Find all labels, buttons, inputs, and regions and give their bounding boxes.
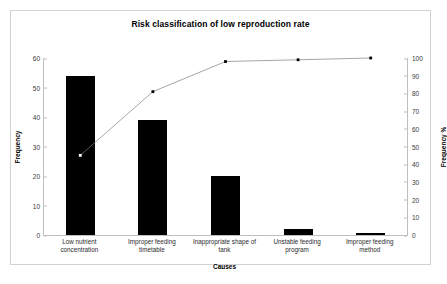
y-tick-label: 50 xyxy=(33,84,44,91)
category-label: Improper feedingtimetable xyxy=(116,238,189,255)
category-label: Improper feedingmethod xyxy=(333,238,406,255)
secondary-y-tick-mark xyxy=(404,58,407,59)
category-label-line: Unstable feeding xyxy=(261,238,334,246)
category-label-line: Inappropriate shape of xyxy=(188,238,261,246)
secondary-y-tick-mark xyxy=(404,76,407,77)
y-axis-label: Frequency xyxy=(14,130,21,163)
chart-title: Risk classification of low reproduction … xyxy=(11,19,430,29)
y-tick-mark xyxy=(44,206,47,207)
category-label-line: Improper feeding xyxy=(333,238,406,246)
category-label-line: tank xyxy=(188,246,261,254)
chart-frame: Risk classification of low reproduction … xyxy=(10,10,431,265)
secondary-y-axis-label: Frequency % xyxy=(440,126,447,166)
category-label-line: Low nutrient xyxy=(43,238,116,246)
category-label-line: method xyxy=(333,246,406,254)
secondary-y-tick-mark xyxy=(404,93,407,94)
secondary-y-tick-mark xyxy=(404,182,407,183)
line-marker xyxy=(152,90,155,93)
secondary-y-tick-mark xyxy=(404,147,407,148)
category-axis-labels: Low nutrientconcentrationImproper feedin… xyxy=(43,238,406,264)
secondary-y-tick-mark xyxy=(404,129,407,130)
category-label-line: program xyxy=(261,246,334,254)
category-label-line: concentration xyxy=(43,246,116,254)
bar xyxy=(138,120,167,235)
cumulative-line xyxy=(80,58,370,155)
secondary-y-tick-label: 30 xyxy=(407,178,419,185)
secondary-y-tick-mark xyxy=(404,200,407,201)
category-label-line: timetable xyxy=(116,246,189,254)
y-tick-mark xyxy=(44,147,47,148)
secondary-y-tick-label: 70 xyxy=(407,108,419,115)
y-tick-mark xyxy=(44,235,47,236)
secondary-y-tick-label: 100 xyxy=(407,55,423,62)
secondary-y-tick-label: 50 xyxy=(407,143,419,150)
line-marker xyxy=(369,57,372,60)
x-axis-label: Causes xyxy=(43,263,406,270)
y-tick-mark xyxy=(44,117,47,118)
y-tick-mark xyxy=(44,58,47,59)
secondary-y-tick-label: 10 xyxy=(407,214,419,221)
y-tick-label: 10 xyxy=(33,202,44,209)
category-label-line: Improper feeding xyxy=(116,238,189,246)
secondary-y-tick-label: 60 xyxy=(407,125,419,132)
bar xyxy=(356,233,385,235)
secondary-y-tick-label: 20 xyxy=(407,196,419,203)
secondary-y-tick-mark xyxy=(404,217,407,218)
secondary-y-tick-mark xyxy=(404,164,407,165)
secondary-y-tick-label: 40 xyxy=(407,161,419,168)
bar xyxy=(284,229,313,235)
y-tick-label: 60 xyxy=(33,55,44,62)
category-label: Unstable feedingprogram xyxy=(261,238,334,255)
secondary-y-tick-label: 90 xyxy=(407,72,419,79)
y-tick-mark xyxy=(44,88,47,89)
category-label: Low nutrientconcentration xyxy=(43,238,116,255)
y-tick-label: 30 xyxy=(33,143,44,150)
bar xyxy=(66,76,95,235)
line-marker xyxy=(224,60,227,63)
line-marker xyxy=(297,58,300,61)
secondary-y-tick-label: 0 xyxy=(407,232,416,239)
y-tick-mark xyxy=(44,176,47,177)
plot-area: Frequency Frequency % 0102030405060 0102… xyxy=(43,58,408,236)
secondary-y-tick-mark xyxy=(404,235,407,236)
y-tick-label: 40 xyxy=(33,114,44,121)
y-tick-label: 20 xyxy=(33,173,44,180)
bar xyxy=(211,176,240,235)
secondary-y-tick-label: 80 xyxy=(407,90,419,97)
secondary-y-tick-mark xyxy=(404,111,407,112)
category-label: Inappropriate shape oftank xyxy=(188,238,261,255)
